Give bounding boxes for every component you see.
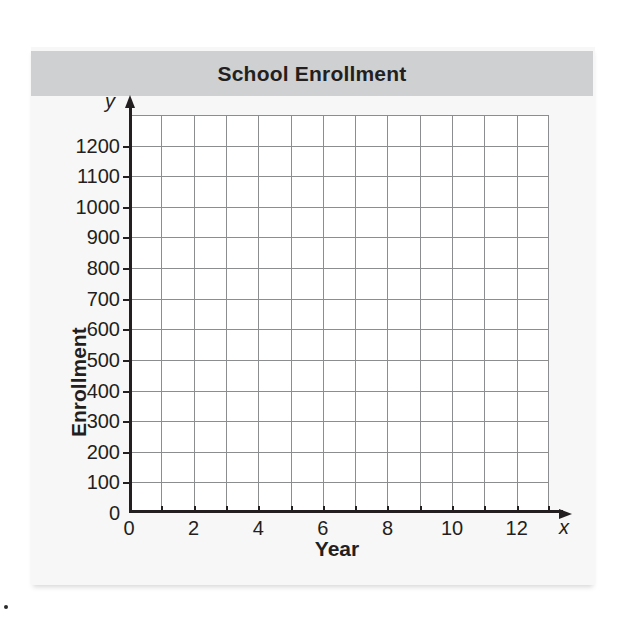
x-axis-tick: [420, 506, 422, 513]
y-axis-tick: [123, 207, 129, 209]
y-axis-tick: [123, 299, 129, 301]
x-axis-tick: [484, 506, 486, 513]
gridline-vertical: [194, 115, 195, 513]
gridline-vertical: [161, 115, 162, 513]
y-axis-tick: [123, 391, 129, 393]
y-axis-variable-label: y: [105, 90, 115, 113]
chart-card: School Enrollment Enrollment: [31, 47, 595, 585]
gridline-horizontal: [129, 115, 549, 116]
y-axis-tick: [123, 482, 129, 484]
y-axis-line: [129, 106, 132, 513]
y-axis-tick-label: 1200: [76, 134, 121, 157]
gridline-vertical: [291, 115, 292, 513]
x-axis-title: Year: [31, 537, 595, 561]
page-title: School Enrollment: [218, 62, 407, 86]
gridline-vertical: [452, 115, 453, 513]
x-axis-tick: [161, 506, 163, 513]
grid-background: [129, 115, 549, 513]
gridline-vertical: [548, 115, 549, 513]
gridline-vertical: [355, 115, 356, 513]
x-axis-tick: [323, 506, 325, 513]
y-axis-tick: [123, 268, 129, 270]
gridline-horizontal: [129, 482, 549, 483]
x-axis-tick: [548, 506, 550, 513]
y-axis-arrow-icon: [125, 95, 135, 108]
gridline-horizontal: [129, 299, 549, 300]
y-axis-tick-label: 1100: [77, 165, 120, 188]
y-axis-tick-label: 900: [87, 226, 120, 249]
gridline-horizontal: [129, 237, 549, 238]
gridline-horizontal: [129, 391, 549, 392]
y-axis-tick: [123, 176, 129, 178]
gridline-vertical: [387, 115, 388, 513]
gridline-horizontal: [129, 146, 549, 147]
y-axis-tick-label: 600: [87, 318, 120, 341]
y-axis-tick: [123, 452, 129, 454]
y-axis-tick-label: 800: [87, 257, 120, 280]
x-axis-variable-label: x: [559, 516, 569, 539]
y-axis-tick-label: 0: [109, 502, 120, 525]
chart-title-band: School Enrollment: [31, 51, 593, 96]
gridline-horizontal: [129, 421, 549, 422]
x-axis-tick: [194, 506, 196, 513]
gridline-horizontal: [129, 329, 549, 330]
y-axis-tick: [123, 329, 129, 331]
plot-area: 1200 1100 1000 900 800 700 600 500 400 3…: [129, 115, 549, 513]
x-axis-tick: [517, 506, 519, 513]
y-axis-tick: [123, 421, 129, 423]
y-axis-tick: [123, 360, 129, 362]
y-axis-tick-label: 700: [87, 287, 120, 310]
x-axis-tick: [291, 506, 293, 513]
y-axis-tick-label: 100: [87, 471, 120, 494]
x-axis-tick: [387, 506, 389, 513]
x-axis-tick: [226, 506, 228, 513]
y-axis-tick-label: 300: [87, 410, 120, 433]
gridline-vertical: [323, 115, 324, 513]
gridline-horizontal: [129, 268, 549, 269]
gridline-horizontal: [129, 452, 549, 453]
x-axis-tick: [258, 506, 260, 513]
x-axis-tick: [452, 506, 454, 513]
y-axis-tick: [123, 146, 129, 148]
y-axis-tick-label: 1000: [76, 195, 121, 218]
x-axis-tick: [355, 506, 357, 513]
gridline-vertical: [517, 115, 518, 513]
page-artifact-dot: [4, 605, 8, 609]
gridline-vertical: [258, 115, 259, 513]
gridline-horizontal: [129, 207, 549, 208]
gridline-vertical: [484, 115, 485, 513]
gridline-vertical: [420, 115, 421, 513]
gridline-horizontal: [129, 360, 549, 361]
gridline-vertical: [226, 115, 227, 513]
y-axis-tick-label: 500: [87, 348, 120, 371]
y-axis-tick: [123, 237, 129, 239]
gridline-horizontal: [129, 176, 549, 177]
y-axis-tick-label: 400: [87, 379, 120, 402]
y-axis-tick-label: 200: [87, 440, 120, 463]
